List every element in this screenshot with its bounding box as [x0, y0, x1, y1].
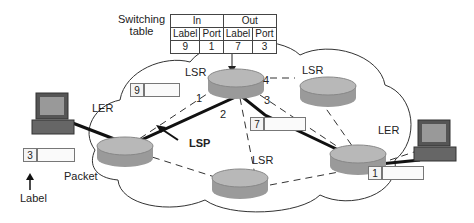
- packet-label: 3: [23, 148, 37, 162]
- annotation-packet: Packet: [64, 170, 98, 182]
- router-lsr-top: [208, 69, 264, 99]
- switching-table-caption: Switching table: [118, 13, 165, 37]
- computer-right: [414, 120, 456, 161]
- annotation-lsp: LSP: [189, 137, 210, 149]
- label-lsr-right: LSR: [302, 64, 323, 76]
- header-out: Out: [223, 15, 276, 28]
- col-in-label: Label: [171, 28, 200, 41]
- switching-table: In Out Label Port Label Port 9 1 7 3: [170, 14, 277, 54]
- packet-into-lsr: 9: [130, 83, 185, 97]
- router-lsr-right: [300, 77, 356, 107]
- packet-body: [144, 83, 180, 97]
- packet-label: 7: [250, 117, 264, 131]
- port-2: 2: [220, 108, 226, 120]
- label-ler-left: LER: [92, 102, 113, 114]
- packet-source: 3: [23, 148, 81, 162]
- label-ler-right: LER: [378, 124, 399, 136]
- cell-out-port: 3: [253, 41, 276, 54]
- packet-destination: 1: [368, 166, 430, 180]
- caption-line1: Switching: [118, 13, 165, 25]
- cell-in-label: 9: [171, 41, 200, 54]
- packet-body: [382, 166, 424, 180]
- header-in: In: [171, 15, 224, 28]
- col-out-port: Port: [253, 28, 276, 41]
- caption-line2: table: [118, 25, 165, 37]
- port-3: 3: [264, 94, 270, 106]
- label-lsr-top: LSR: [185, 66, 206, 78]
- router-lsr-bottom: [212, 169, 268, 199]
- packet-label: 9: [130, 83, 144, 97]
- packet-out-of-lsr: 7: [250, 117, 312, 131]
- label-lsr-bottom: LSR: [252, 154, 273, 166]
- router-ler-left: [97, 137, 153, 167]
- port-4: 4: [263, 74, 269, 86]
- computer-left: [32, 93, 74, 134]
- col-out-label: Label: [223, 28, 252, 41]
- packet-body: [37, 148, 75, 162]
- col-in-port: Port: [200, 28, 223, 41]
- cell-out-label: 7: [223, 41, 252, 54]
- port-1: 1: [196, 92, 202, 104]
- packet-label: 1: [368, 166, 382, 180]
- packet-body: [264, 117, 306, 131]
- annotation-label: Label: [20, 192, 47, 204]
- cell-in-port: 1: [200, 41, 223, 54]
